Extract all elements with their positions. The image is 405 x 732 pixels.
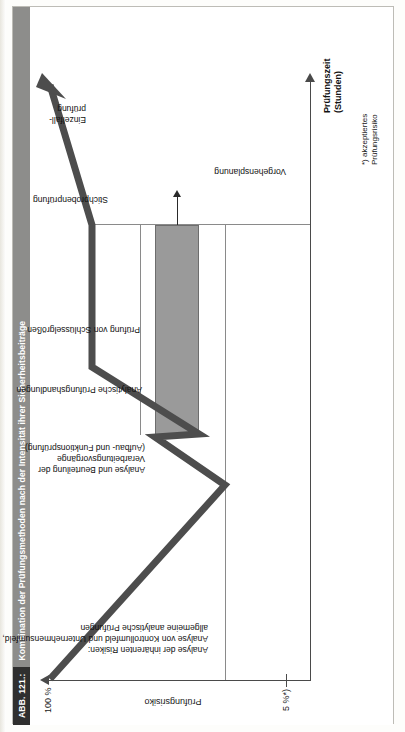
x-axis-label-line2: (Stunden)	[333, 58, 344, 113]
annotation-einzelfallpruefung-line1: Einzelfall-	[49, 114, 86, 125]
annotation-vorgehensplanung: Vorgehensplanung	[214, 167, 286, 177]
x-axis-label-line1: Prüfungszeit	[322, 58, 333, 113]
x-axis-label: Prüfungszeit (Stunden)	[322, 58, 344, 113]
annotation-inhaerente-risiken-line3: allgemeine analytische Prüfungen	[2, 622, 208, 633]
annotation-stichprobenpruefung: Stichprobenprüfung	[33, 195, 108, 205]
annotation-pruefung-schluesselgroessen: Prüfung von Schlüsselgrößen	[27, 325, 140, 335]
annotation-einzelfallpruefung: Einzelfall- prüfung	[49, 103, 86, 125]
figure-number: ABB. 121.:	[13, 667, 30, 725]
annotation-verarbeitungsvorgaenge-line3: (Aufbau- und Funktionsprüfung)	[25, 442, 145, 453]
rotated-figure-canvas: ABB. 121.: Kombination der Prüfungsmetho…	[13, 7, 393, 725]
y-tick-label-100: 100 %	[43, 687, 54, 713]
footnote-line1: *) akzeptiertes	[360, 114, 370, 165]
annotation-einzelfallpruefung-line2: prüfung	[49, 103, 86, 114]
plot-area: 100 % 5 %*) Prüfungsrisiko Prüfungszeit …	[30, 7, 393, 725]
footnote: *) akzeptiertes Prüfungsrisiko	[360, 114, 379, 165]
footnote-line2: Prüfungsrisiko	[370, 114, 380, 165]
figure-title: Kombination der Prüfungsmethoden nach de…	[17, 321, 27, 668]
annotation-inhaerente-risiken-line1: Analyse der inhärenten Risiken:	[2, 644, 208, 655]
y-tick-label-5: 5 %*)	[281, 689, 292, 711]
annotation-verarbeitungsvorgaenge-line1: Analyse und Beurteilung der	[25, 464, 145, 475]
y-axis-label: Prüfungsrisiko	[128, 697, 218, 707]
figure-page: ABB. 121.: Kombination der Prüfungsmetho…	[0, 0, 405, 732]
annotation-verarbeitungsvorgaenge-line2: Verarbeitungsvorgänge	[25, 453, 145, 464]
annotation-analytische-pruefungshandlungen: Analytische Prüfungshandlungen	[16, 385, 142, 395]
annotation-inhaerente-risiken: Analyse der inhärenten Risiken: Analyse …	[2, 622, 208, 655]
annotation-inhaerente-risiken-line2: Analyse von Kontrollumfeld und Unternehm…	[2, 633, 208, 644]
annotation-verarbeitungsvorgaenge: Analyse und Beurteilung der Verarbeitung…	[25, 442, 145, 475]
figure-title-bar: ABB. 121.: Kombination der Prüfungsmetho…	[13, 7, 30, 725]
